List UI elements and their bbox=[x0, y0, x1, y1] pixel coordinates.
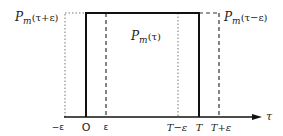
pulse-shifted-right bbox=[106, 13, 219, 117]
label-right-curve: Pm(τ−ε) bbox=[223, 10, 268, 26]
label-left-curve: Pm(τ+ε) bbox=[14, 10, 59, 26]
pulse-shifted-left bbox=[65, 13, 178, 117]
tick-T-plus-eps: T+ε bbox=[211, 122, 231, 133]
axis-arrow-icon bbox=[252, 114, 262, 120]
tick-origin: O bbox=[82, 121, 91, 134]
tick-minus-eps: −ε bbox=[52, 122, 65, 132]
pulse-main bbox=[86, 13, 199, 117]
tick-eps: ε bbox=[104, 122, 109, 132]
label-center-curve: Pm(τ) bbox=[130, 29, 161, 45]
tick-T-minus-eps: T−ε bbox=[167, 122, 187, 133]
pulse-diagram: Pm(τ+ε) Pm(τ) Pm(τ−ε) −ε O ε T−ε T T+ε τ bbox=[0, 0, 283, 136]
tick-T: T bbox=[196, 122, 204, 133]
axis-label-tau: τ bbox=[266, 110, 273, 123]
